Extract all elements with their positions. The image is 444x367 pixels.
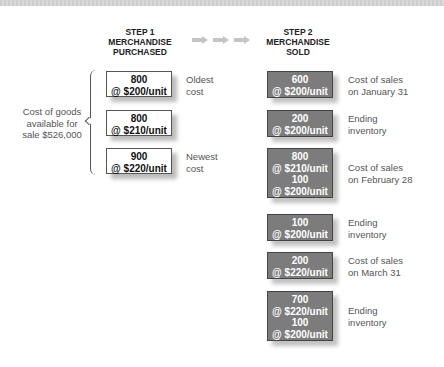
step1-line3: PURCHASED [85,47,195,57]
note-line1: Newest [186,151,218,163]
lot-price: @ $220/unit [268,267,332,279]
arrow-icon [213,36,230,44]
goods-available-label: Cost of goods available for sale $526,00… [8,106,96,141]
note-line2: cost [186,163,218,175]
goods-available-line3: sale $526,000 [8,129,96,141]
goods-available-line2: available for [8,118,96,130]
lot-qty: 800 [268,151,332,163]
lot-qty: 100 [268,317,332,329]
lot-qty: 600 [268,74,332,86]
lot-qty: 800 [107,113,171,125]
note-line1: Cost of sales [348,255,403,267]
lot-qty: 100 [268,174,332,186]
lot-qty: 800 [107,74,171,86]
lot-price: @ $200/unit [268,329,332,341]
note-line2: inventory [348,317,387,329]
note-line2: cost [186,86,213,98]
sold-lot-4: 100 @ $200/unit [267,214,333,241]
sold-note-3: Cost of sales on February 28 [348,162,412,185]
purchased-lot-1: 800 @ $200/unit [106,71,172,97]
sold-note-1: Cost of sales on January 31 [348,74,408,97]
purchased-lot-3: 900 @ $220/unit [106,148,172,174]
lot-qty: 900 [107,151,171,163]
lot-qty: 200 [268,255,332,267]
arrow-icon [192,36,209,44]
note-line2: on January 31 [348,86,408,98]
lot-qty: 200 [268,113,332,125]
lot-price: @ $210/unit [268,163,332,175]
lot-price: @ $210/unit [107,125,171,137]
purchased-note-3: Newest cost [186,151,218,174]
sold-note-4: Ending inventory [348,217,387,240]
sold-note-5: Cost of sales on March 31 [348,255,403,278]
top-banner-strip [0,0,444,6]
note-line1: Ending [348,113,387,125]
note-line1: Oldest [186,74,213,86]
lot-price: @ $200/unit [268,229,332,241]
step1-line1: STEP 1 [85,27,195,37]
purchased-note-1: Oldest cost [186,74,213,97]
step1-header: STEP 1 MERCHANDISE PURCHASED [85,27,195,57]
lot-price: @ $200/unit [268,125,332,137]
step2-line3: SOLD [243,47,353,57]
arrow-icon [234,36,251,44]
note-line2: on February 28 [348,174,412,186]
goods-available-line1: Cost of goods [8,106,96,118]
sold-note-2: Ending inventory [348,113,387,136]
note-line2: inventory [348,125,387,137]
note-line1: Ending [348,217,387,229]
lot-price: @ $200/unit [268,86,332,98]
note-line2: on March 31 [348,267,403,279]
lot-price: @ $220/unit [268,306,332,318]
purchased-lot-2: 800 @ $210/unit [106,110,172,136]
lot-price: @ $220/unit [107,163,171,175]
note-line1: Cost of sales [348,162,412,174]
flow-arrows [192,36,251,44]
step1-line2: MERCHANDISE [85,37,195,47]
note-line1: Cost of sales [348,74,408,86]
sold-lot-5: 200 @ $220/unit [267,252,333,279]
step2-line1: STEP 2 [243,27,353,37]
lot-qty: 700 [268,294,332,306]
note-line1: Ending [348,305,387,317]
step2-header: STEP 2 MERCHANDISE SOLD [243,27,353,57]
lot-price: @ $200/unit [268,186,332,198]
sold-lot-6: 700 @ $220/unit 100 @ $200/unit [267,291,333,341]
lot-qty: 100 [268,217,332,229]
sold-lot-1: 600 @ $200/unit [267,71,333,98]
lot-price: @ $200/unit [107,86,171,98]
sold-lot-2: 200 @ $200/unit [267,110,333,137]
sold-lot-3: 800 @ $210/unit 100 @ $200/unit [267,148,333,198]
note-line2: inventory [348,229,387,241]
sold-note-6: Ending inventory [348,305,387,328]
step2-line2: MERCHANDISE [243,37,353,47]
